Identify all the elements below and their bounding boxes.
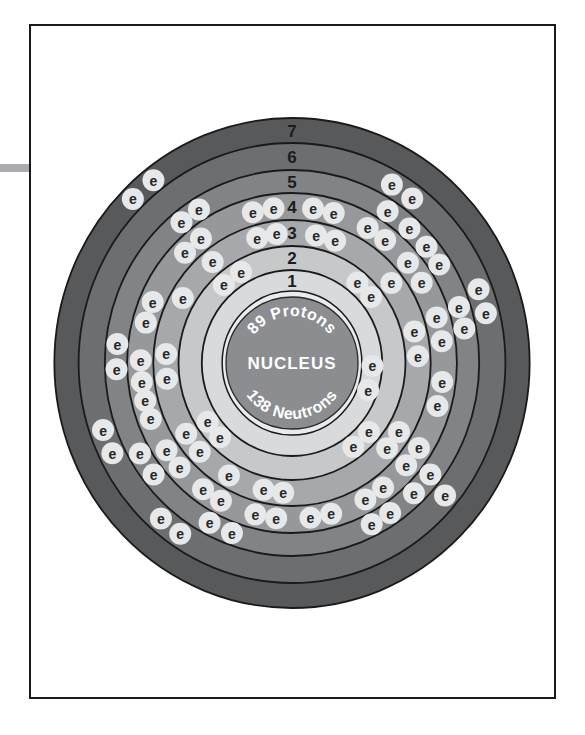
- electron-shell-4: e: [374, 229, 396, 251]
- electron-shell-2: e: [230, 261, 252, 283]
- electron-shell-4: e: [142, 291, 164, 313]
- electron-symbol: e: [460, 321, 468, 337]
- electron-symbol: e: [402, 458, 410, 474]
- electron-shell-5: e: [448, 296, 470, 318]
- electron-symbol: e: [273, 226, 281, 242]
- electron-shell-4: e: [299, 507, 321, 529]
- electron-shell-3: e: [305, 224, 327, 246]
- electron-symbol: e: [426, 467, 434, 483]
- electron-shell-3: e: [202, 251, 224, 273]
- scanned-page: 89 Protons138 NeutronsNUCLEUS1ee2eeeeeee…: [0, 0, 585, 735]
- electron-shell-6: e: [401, 187, 423, 209]
- electron-symbol: e: [361, 492, 369, 508]
- electron-shell-4: e: [134, 390, 156, 412]
- electron-symbol: e: [150, 173, 158, 189]
- shell-2-number: 2: [287, 249, 296, 268]
- electron-symbol: e: [150, 467, 158, 483]
- electron-symbol: e: [279, 485, 287, 501]
- electron-symbol: e: [196, 444, 204, 460]
- electron-symbol: e: [176, 460, 184, 476]
- electron-symbol: e: [142, 315, 150, 331]
- electron-symbol: e: [388, 177, 396, 193]
- electron-symbol: e: [182, 426, 190, 442]
- electron-shell-3: e: [407, 345, 429, 367]
- electron-symbol: e: [367, 289, 375, 305]
- electron-symbol: e: [179, 291, 187, 307]
- electron-symbol: e: [136, 446, 144, 462]
- electron-symbol: e: [475, 282, 483, 298]
- electron-symbol: e: [272, 511, 280, 527]
- electron-symbol: e: [410, 324, 418, 340]
- electron-symbol: e: [109, 446, 117, 462]
- electron-shell-5: e: [106, 333, 128, 355]
- electron-symbol: e: [178, 215, 186, 231]
- electron-shell-5: e: [453, 317, 475, 339]
- electron-shell-3: e: [156, 368, 178, 390]
- electron-symbol: e: [408, 191, 416, 207]
- electron-shell-3: e: [218, 465, 240, 487]
- electron-symbol: e: [438, 375, 446, 391]
- electron-shell-4: e: [411, 272, 433, 294]
- electron-shell-4: e: [265, 507, 287, 529]
- electron-symbol: e: [381, 233, 389, 249]
- electron-symbol: e: [331, 233, 339, 249]
- electron-symbol: e: [216, 430, 224, 446]
- electron-symbol: e: [365, 424, 373, 440]
- electron-symbol: e: [418, 275, 426, 291]
- electron-symbol: e: [438, 334, 446, 350]
- electron-symbol: e: [228, 526, 236, 542]
- electron-shell-3: e: [266, 223, 288, 245]
- electron-symbol: e: [251, 507, 259, 523]
- shell-1-number: 1: [287, 272, 296, 291]
- electron-symbol: e: [330, 206, 338, 222]
- electron-symbol: e: [441, 488, 449, 504]
- electron-symbol: e: [138, 375, 146, 391]
- electron-symbol: e: [312, 228, 320, 244]
- electron-shell-4: e: [320, 503, 342, 525]
- electron-symbol: e: [309, 201, 317, 217]
- shell-4-number: 4: [287, 198, 297, 217]
- electron-symbol: e: [364, 220, 372, 236]
- electron-symbol: e: [113, 362, 121, 378]
- electron-symbol: e: [435, 257, 443, 273]
- electron-symbol: e: [369, 358, 377, 374]
- electron-shell-2: e: [342, 436, 364, 458]
- electron-shell-4: e: [130, 349, 152, 371]
- electron-shell-4: e: [190, 227, 212, 249]
- electron-shell-4: e: [242, 201, 264, 223]
- electron-symbol: e: [482, 306, 490, 322]
- electron-symbol: e: [209, 254, 217, 270]
- electron-symbol: e: [406, 221, 414, 237]
- electron-shell-3: e: [253, 479, 275, 501]
- electron-symbol: e: [113, 337, 121, 353]
- electron-shell-5: e: [361, 513, 383, 535]
- electron-symbol: e: [368, 517, 376, 533]
- electron-symbol: e: [270, 201, 278, 217]
- electron-symbol: e: [99, 423, 107, 439]
- electron-shell-2: e: [197, 411, 219, 433]
- electron-symbol: e: [237, 265, 245, 281]
- electron-shell-5: e: [419, 463, 441, 485]
- electron-symbol: e: [354, 275, 362, 291]
- electron-shell-6: e: [101, 442, 123, 464]
- electron-shell-3: e: [272, 482, 294, 504]
- electron-symbol: e: [225, 468, 233, 484]
- electron-shell-1: e: [361, 355, 383, 377]
- electron-symbol: e: [149, 295, 157, 311]
- electron-shell-6: e: [150, 507, 172, 529]
- electron-symbol: e: [307, 510, 315, 526]
- electron-symbol: e: [147, 411, 155, 427]
- electron-symbol: e: [395, 424, 403, 440]
- electron-shell-6: e: [475, 302, 497, 324]
- shell-6-number: 6: [287, 148, 296, 167]
- margin-bar: [0, 164, 30, 172]
- electron-symbol: e: [414, 349, 422, 365]
- electron-shell-5: e: [428, 253, 450, 275]
- electron-shell-5: e: [143, 463, 165, 485]
- electron-symbol: e: [157, 511, 165, 527]
- electron-shell-5: e: [199, 512, 221, 534]
- electron-symbol: e: [383, 441, 391, 457]
- electron-shell-1: e: [357, 379, 379, 401]
- electron-symbol: e: [364, 383, 372, 399]
- electron-shell-6: e: [381, 174, 403, 196]
